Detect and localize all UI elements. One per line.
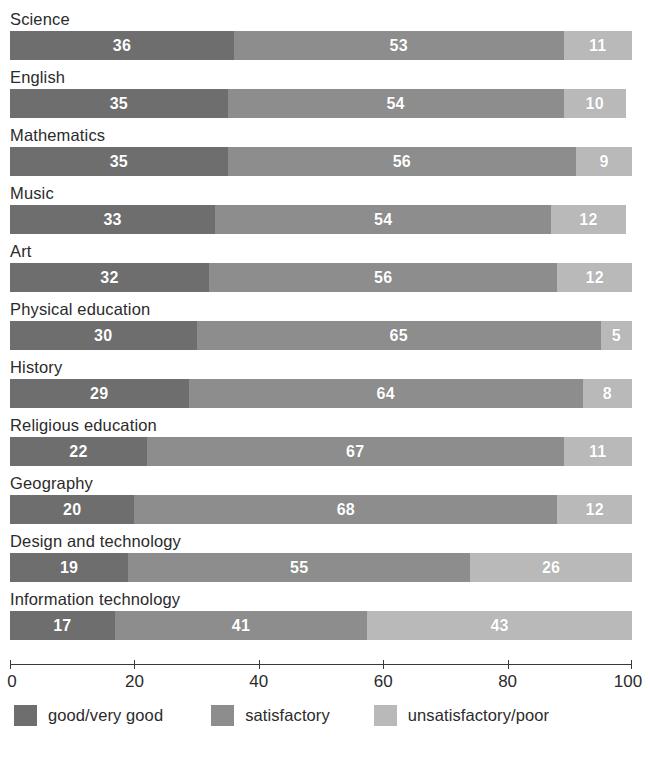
- x-axis-tick: [631, 660, 632, 669]
- bar-row: Design and technology195526: [10, 530, 632, 588]
- legend-label: good/very good: [48, 706, 163, 725]
- bar-segment-value: 12: [579, 212, 597, 228]
- bar-segment: 20: [10, 495, 134, 524]
- x-axis-tick-label: 40: [249, 672, 268, 692]
- bar-segment-value: 35: [110, 96, 128, 112]
- stacked-bar: 335412: [10, 205, 632, 234]
- bar-segment: 19: [10, 553, 128, 582]
- bar-segment-value: 30: [94, 328, 112, 344]
- bar-row: Music335412: [10, 182, 632, 240]
- bar-segment: 26: [470, 553, 632, 582]
- bar-row-label: Geography: [10, 472, 93, 495]
- bar-segment-value: 36: [113, 38, 131, 54]
- chart-legend: good/very goodsatisfactoryunsatisfactory…: [14, 700, 549, 730]
- bar-segment-value: 26: [542, 560, 560, 576]
- x-axis-tick: [134, 660, 135, 669]
- bar-segment: 12: [557, 495, 632, 524]
- stacked-bar: 29648: [10, 379, 632, 408]
- bar-segment: 11: [564, 437, 632, 466]
- x-axis-tick-label: 60: [374, 672, 393, 692]
- bar-row-label: Art: [10, 240, 32, 263]
- x-axis-tick: [10, 660, 11, 669]
- stacked-bar-chart: Science365311English355410Mathematics355…: [0, 0, 650, 765]
- x-axis: 020406080100: [10, 664, 632, 698]
- bar-segment: 5: [601, 321, 632, 350]
- bar-segment: 33: [10, 205, 215, 234]
- x-axis-tick-label: 20: [125, 672, 144, 692]
- bar-segment: 32: [10, 263, 209, 292]
- bar-segment: 12: [557, 263, 632, 292]
- bar-segment-value: 41: [232, 618, 250, 634]
- bar-segment: 22: [10, 437, 147, 466]
- bar-segment: 54: [215, 205, 551, 234]
- bar-row: Science365311: [10, 8, 632, 66]
- bar-row-label: Physical education: [10, 298, 150, 321]
- bar-segment-value: 22: [69, 444, 87, 460]
- bar-segment-value: 17: [53, 618, 71, 634]
- bar-segment-value: 55: [290, 560, 308, 576]
- bar-segment: 29: [10, 379, 189, 408]
- bar-segment: 41: [115, 611, 368, 640]
- bar-segment-value: 68: [337, 502, 355, 518]
- bar-segment: 11: [564, 31, 632, 60]
- bar-segment-value: 20: [63, 502, 81, 518]
- stacked-bar: 174143: [10, 611, 632, 640]
- stacked-bar: 30655: [10, 321, 632, 350]
- bar-row-label: Religious education: [10, 414, 157, 437]
- plot-area: Science365311English355410Mathematics355…: [10, 8, 632, 646]
- bar-row-label: Information technology: [10, 588, 180, 611]
- bar-segment-value: 67: [346, 444, 364, 460]
- bar-segment: 53: [234, 31, 564, 60]
- bar-segment-value: 11: [589, 38, 607, 54]
- bar-segment-value: 56: [374, 270, 392, 286]
- bar-segment: 10: [564, 89, 626, 118]
- bar-segment-value: 54: [374, 212, 392, 228]
- bar-segment-value: 29: [90, 386, 108, 402]
- x-axis-line: [10, 664, 632, 665]
- bar-row-label: Mathematics: [10, 124, 105, 147]
- legend-item: good/very good: [14, 705, 163, 726]
- bar-row-label: English: [10, 66, 65, 89]
- bar-row: Religious education226711: [10, 414, 632, 472]
- legend-swatch-icon: [211, 705, 234, 726]
- bar-segment-value: 43: [490, 618, 508, 634]
- bar-segment-value: 54: [386, 96, 404, 112]
- bar-segment: 43: [367, 611, 632, 640]
- legend-swatch-icon: [374, 705, 397, 726]
- x-axis-tick: [508, 660, 509, 669]
- legend-label: unsatisfactory/poor: [408, 706, 549, 725]
- legend-label: satisfactory: [245, 706, 330, 725]
- stacked-bar: 226711: [10, 437, 632, 466]
- bar-row: Physical education30655: [10, 298, 632, 356]
- x-axis-tick-label: 80: [498, 672, 517, 692]
- bar-segment-value: 65: [390, 328, 408, 344]
- bar-segment: 56: [209, 263, 557, 292]
- bar-segment: 36: [10, 31, 234, 60]
- bar-row: English355410: [10, 66, 632, 124]
- stacked-bar: 35569: [10, 147, 632, 176]
- bar-segment: 68: [134, 495, 557, 524]
- bar-segment-value: 11: [589, 444, 607, 460]
- x-axis-tick-label: 100: [614, 672, 642, 692]
- bar-segment: 65: [197, 321, 601, 350]
- legend-item: satisfactory: [211, 705, 330, 726]
- bar-segment-value: 9: [599, 154, 608, 170]
- bar-segment: 17: [10, 611, 115, 640]
- x-axis-tick: [259, 660, 260, 669]
- bar-segment: 67: [147, 437, 564, 466]
- stacked-bar: 325612: [10, 263, 632, 292]
- bar-segment-value: 33: [103, 212, 121, 228]
- bar-segment-value: 53: [390, 38, 408, 54]
- bar-row: History29648: [10, 356, 632, 414]
- bar-segment: 56: [228, 147, 576, 176]
- bar-segment: 9: [576, 147, 632, 176]
- bar-segment-value: 19: [60, 560, 78, 576]
- bar-segment-value: 56: [393, 154, 411, 170]
- bar-segment: 8: [583, 379, 632, 408]
- bar-segment-value: 10: [585, 96, 603, 112]
- bar-row: Art325612: [10, 240, 632, 298]
- bar-row: Mathematics35569: [10, 124, 632, 182]
- stacked-bar: 195526: [10, 553, 632, 582]
- stacked-bar: 206812: [10, 495, 632, 524]
- stacked-bar: 365311: [10, 31, 632, 60]
